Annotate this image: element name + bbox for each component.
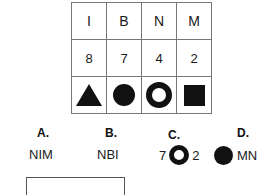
grid-number-value: 8 bbox=[85, 51, 92, 66]
filled-square-icon bbox=[184, 85, 205, 106]
grid-cell-number-2: 7 bbox=[107, 40, 142, 77]
option-d-label: D. bbox=[237, 127, 249, 139]
grid-number-value: 2 bbox=[190, 51, 197, 66]
table-row-shapes bbox=[72, 77, 212, 114]
grid-cell-number-3: 4 bbox=[142, 40, 177, 77]
shape-slot bbox=[72, 77, 106, 113]
grid-number-value: 4 bbox=[155, 51, 162, 66]
grid-cell-shape-3 bbox=[142, 77, 177, 114]
option-a-label: A. bbox=[37, 127, 49, 139]
grid-cell-number-1: 8 bbox=[72, 40, 107, 77]
grid-cell-shape-1 bbox=[72, 77, 107, 114]
grid-cell-letter-3: N bbox=[142, 3, 177, 40]
triangle-icon bbox=[76, 84, 102, 106]
grid-cell-shape-2 bbox=[107, 77, 142, 114]
table-row-numbers: 8 7 4 2 bbox=[72, 40, 212, 77]
option-c-right-number: 2 bbox=[192, 149, 199, 162]
grid-cell-letter-2: B bbox=[107, 3, 142, 40]
grid-cell-shape-4 bbox=[177, 77, 212, 114]
shape-slot bbox=[177, 77, 211, 113]
shape-slot bbox=[142, 77, 176, 113]
answer-input[interactable] bbox=[26, 177, 125, 195]
puzzle-grid: I B N M 8 7 4 2 bbox=[71, 2, 212, 114]
option-d-text: MN bbox=[237, 149, 257, 162]
grid-letter-value: M bbox=[188, 13, 200, 29]
shape-slot bbox=[107, 77, 141, 113]
filled-circle-icon bbox=[113, 84, 135, 106]
ring-icon bbox=[146, 82, 172, 108]
grid-letter-value: N bbox=[154, 13, 164, 29]
option-b-answer[interactable]: NBI bbox=[97, 148, 119, 161]
option-d-answer[interactable]: MN bbox=[214, 146, 257, 165]
option-b-label: B. bbox=[105, 127, 117, 139]
grid-letter-value: B bbox=[119, 13, 128, 29]
option-c-label: C. bbox=[168, 129, 180, 141]
filled-circle-icon bbox=[214, 146, 233, 165]
grid-letter-value: I bbox=[87, 13, 91, 29]
table-row-letters: I B N M bbox=[72, 3, 212, 40]
grid-cell-letter-4: M bbox=[177, 3, 212, 40]
grid-number-value: 7 bbox=[120, 51, 127, 66]
option-c-left-number: 7 bbox=[159, 149, 166, 162]
option-c-answer[interactable]: 7 2 bbox=[159, 145, 199, 165]
grid-cell-number-4: 2 bbox=[177, 40, 212, 77]
option-a-answer[interactable]: NIM bbox=[29, 148, 53, 161]
grid-cell-letter-1: I bbox=[72, 3, 107, 40]
option-a-text: NIM bbox=[29, 148, 53, 161]
ring-icon bbox=[169, 145, 189, 165]
option-b-text: NBI bbox=[97, 148, 119, 161]
